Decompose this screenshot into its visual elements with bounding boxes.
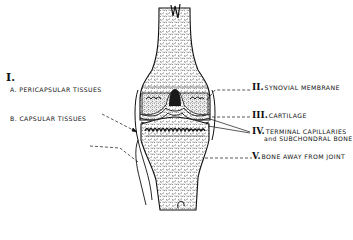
- label-text: SYNOVIAL MEMBRANE: [265, 84, 340, 91]
- group-marker: I.: [6, 71, 15, 84]
- label-text: TERMINAL CAPILLARIES: [266, 128, 347, 135]
- label-text-line2: and SUBCHONDRAL BONE: [252, 135, 353, 142]
- label-text: CARTILAGE: [269, 112, 307, 119]
- label-numeral: III.: [252, 110, 268, 120]
- label-numeral: II.: [252, 82, 264, 92]
- label-pericapsular-tissues: A. PERICAPSULAR TISSUES: [10, 86, 102, 93]
- label-capsular-tissues: B. CAPSULAR TISSUES: [10, 115, 86, 122]
- label-synovial-membrane: II.SYNOVIAL MEMBRANE: [252, 82, 340, 92]
- label-letter: A.: [10, 86, 17, 93]
- label-letter: B.: [10, 115, 17, 122]
- label-bone-away-from-joint: V.BONE AWAY FROM JOINT: [252, 151, 345, 161]
- label-text: PERICAPSULAR TISSUES: [19, 86, 101, 93]
- label-numeral: V.: [252, 151, 261, 161]
- label-text: BONE AWAY FROM JOINT: [262, 153, 346, 160]
- label-cartilage: III.CARTILAGE: [252, 110, 307, 120]
- label-text: CAPSULAR TISSUES: [19, 115, 86, 122]
- label-numeral: IV.: [252, 126, 265, 136]
- label-terminal-capillaries: IV.TERMINAL CAPILLARIES and SUBCHONDRAL …: [252, 126, 353, 142]
